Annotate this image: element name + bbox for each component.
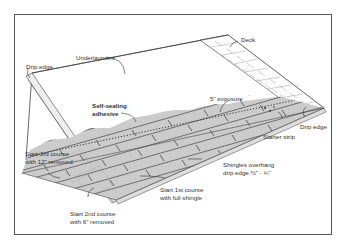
label-first-course-1: Start 1st course [160, 186, 203, 193]
label-self-sealing: Self-sealing [92, 102, 127, 109]
label-overhang-1: Shingles overhang [223, 161, 274, 168]
label-first-course-2: with full shingle [160, 194, 202, 201]
label-deck: Deck [241, 36, 255, 43]
label-starter-strip: Starter strip [263, 133, 295, 140]
label-exposure: 5" exposure [210, 95, 243, 102]
label-third-course-1: Start 3rd course [25, 150, 69, 157]
label-second-course-1: Start 2nd course [70, 210, 115, 217]
label-adhesive: adhesive [92, 110, 118, 117]
label-drip-edge-left: Drip edge [26, 63, 53, 70]
label-second-course-2: with 6" removed [70, 218, 114, 225]
label-underlayment: Underlayment [76, 54, 115, 61]
roof-illustration [0, 0, 342, 251]
label-drip-edge-right: Drip edge [300, 123, 327, 130]
label-third-course-2: with 12" removed [25, 158, 73, 165]
label-overhang-2: drip edge ½" - ¾" [223, 169, 271, 176]
